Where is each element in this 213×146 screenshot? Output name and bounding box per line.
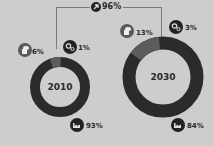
pct-2010-factory: 93% bbox=[86, 122, 103, 131]
connector-left-vertical bbox=[56, 7, 57, 49]
growth-label: 96% bbox=[102, 2, 121, 11]
year-label-2010: 2010 bbox=[42, 82, 78, 92]
pct-2010-gears: 1% bbox=[78, 44, 90, 53]
gears-icon bbox=[63, 40, 77, 54]
year-label-2030: 2030 bbox=[142, 72, 184, 82]
connector-right-vertical bbox=[161, 7, 162, 37]
connector-top-left bbox=[56, 7, 90, 8]
arrow-up-right-icon bbox=[91, 2, 101, 12]
pct-2030-gears: 3% bbox=[185, 24, 197, 33]
factory-icon bbox=[171, 118, 185, 132]
pct-2030-factory: 84% bbox=[187, 122, 204, 131]
pct-2010-container: 6% bbox=[32, 48, 44, 57]
factory-icon bbox=[70, 118, 84, 132]
bin-icon bbox=[18, 43, 32, 57]
gears-icon bbox=[169, 20, 183, 34]
bin-icon bbox=[120, 24, 134, 38]
pct-2030-container: 13% bbox=[136, 29, 153, 38]
connector-top-right bbox=[123, 7, 162, 8]
